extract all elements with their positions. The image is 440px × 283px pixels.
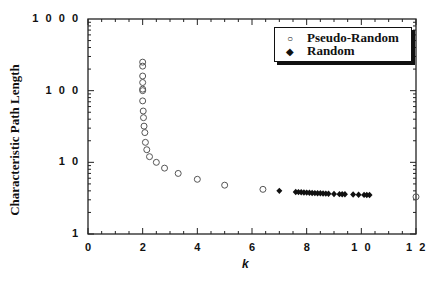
open-circle-icon: ○ <box>283 33 297 44</box>
x-tick-label: 2 <box>140 241 148 253</box>
x-tick-label: 8 <box>304 241 312 253</box>
x-tick-label: 4 <box>194 241 202 253</box>
y-axis-label: Characteristic Path Length <box>7 64 23 216</box>
x-tick-label: 1 2 <box>406 241 427 253</box>
y-tick-label: 1 <box>72 227 80 239</box>
legend-label: Random <box>307 43 355 59</box>
x-tick-label: 0 <box>85 241 93 253</box>
legend-item-random: ◆ Random <box>283 44 355 58</box>
x-tick-label: 1 0 <box>351 241 372 253</box>
x-tick-label: 6 <box>249 241 257 253</box>
y-axis-label-wrap: Characteristic Path Length <box>6 40 24 240</box>
x-axis-label: k <box>242 257 249 271</box>
legend: ○ Pseudo-Random ◆ Random <box>274 27 412 62</box>
data-points <box>140 59 419 200</box>
y-tick-label: 1 0 0 <box>46 84 80 96</box>
y-tick-label: 1 0 <box>59 155 80 167</box>
filled-diamond-icon: ◆ <box>283 46 297 57</box>
y-tick-label: 1 0 0 0 <box>32 12 80 24</box>
